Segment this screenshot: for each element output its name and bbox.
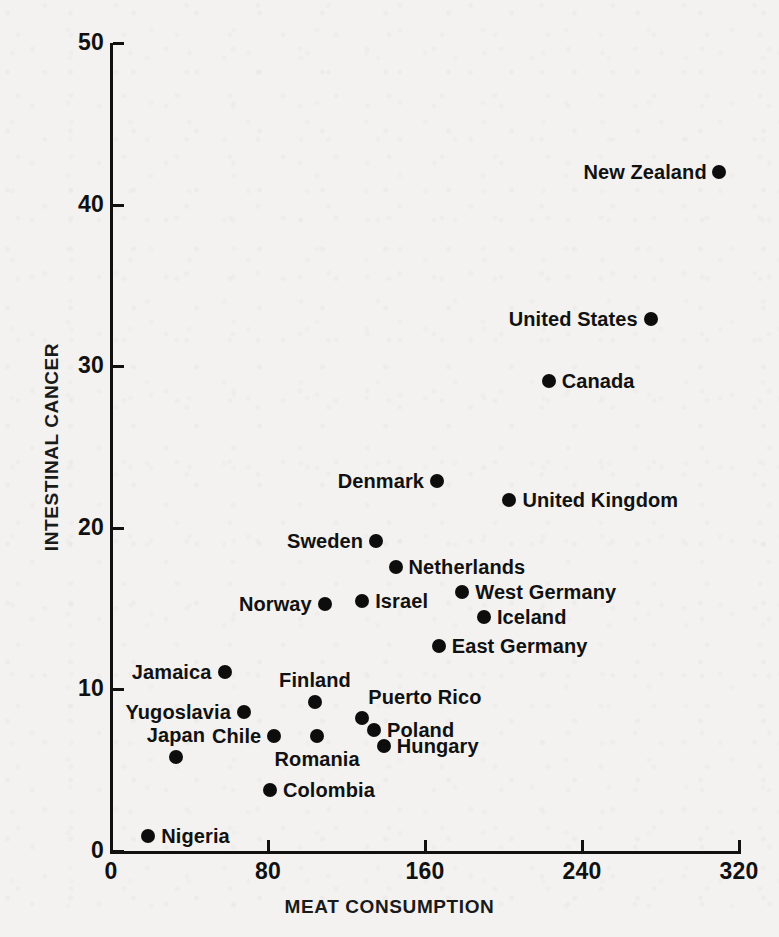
data-point[interactable] bbox=[237, 705, 251, 719]
data-point[interactable] bbox=[430, 474, 444, 488]
data-point-label: Yugoslavia bbox=[125, 702, 231, 722]
x-axis-tick-label: 240 bbox=[547, 860, 617, 883]
paper-texture bbox=[0, 0, 779, 937]
data-point-label: Norway bbox=[239, 594, 312, 614]
y-axis-tick bbox=[113, 688, 124, 691]
data-point[interactable] bbox=[502, 493, 516, 507]
data-point-label: East Germany bbox=[452, 636, 588, 656]
data-point[interactable] bbox=[318, 597, 332, 611]
y-axis-tick-label: 50 bbox=[44, 31, 104, 54]
x-axis-tick-label: 80 bbox=[233, 860, 303, 883]
x-axis-line bbox=[110, 851, 741, 854]
data-point[interactable] bbox=[218, 665, 232, 679]
y-axis-tick bbox=[113, 850, 124, 853]
data-point-label: United States bbox=[509, 309, 638, 329]
data-point-label: Hungary bbox=[397, 736, 479, 756]
x-axis-tick-label: 160 bbox=[390, 860, 460, 883]
data-point-label: Finland bbox=[279, 670, 351, 690]
data-point-label: United Kingdom bbox=[522, 490, 678, 510]
data-point-label: Israel bbox=[375, 591, 428, 611]
data-point[interactable] bbox=[267, 729, 281, 743]
data-point[interactable] bbox=[310, 729, 324, 743]
data-point-label: Jamaica bbox=[132, 662, 212, 682]
data-point-label: Romania bbox=[275, 749, 360, 769]
data-point[interactable] bbox=[377, 739, 391, 753]
data-point[interactable] bbox=[369, 534, 383, 548]
data-point[interactable] bbox=[389, 560, 403, 574]
data-point[interactable] bbox=[542, 374, 556, 388]
y-axis-tick bbox=[113, 527, 124, 530]
chart-page: New ZealandUnited StatesCanadaDenmarkUni… bbox=[0, 0, 779, 937]
data-point[interactable] bbox=[141, 829, 155, 843]
x-axis-title: MEAT CONSUMPTION bbox=[0, 896, 779, 918]
y-axis-line bbox=[110, 43, 113, 854]
data-point[interactable] bbox=[644, 312, 658, 326]
y-axis-tick-label: 20 bbox=[44, 516, 104, 539]
x-axis-tick-label: 320 bbox=[704, 860, 774, 883]
data-point[interactable] bbox=[263, 783, 277, 797]
y-axis-tick bbox=[113, 365, 124, 368]
x-axis-tick-label: 0 bbox=[76, 860, 146, 883]
x-axis-tick bbox=[424, 840, 427, 851]
data-point-label: New Zealand bbox=[583, 162, 706, 182]
data-point[interactable] bbox=[432, 639, 446, 653]
data-point[interactable] bbox=[712, 165, 726, 179]
data-point-label: Puerto Rico bbox=[368, 687, 481, 707]
y-axis-tick-label: 40 bbox=[44, 193, 104, 216]
data-point[interactable] bbox=[367, 723, 381, 737]
data-point-label: Chile bbox=[212, 726, 261, 746]
data-point-label: Iceland bbox=[497, 607, 567, 627]
data-point-label: West Germany bbox=[475, 582, 616, 602]
y-axis-tick bbox=[113, 204, 124, 207]
data-point-label: Canada bbox=[562, 371, 635, 391]
x-axis-tick bbox=[738, 840, 741, 851]
x-axis-tick bbox=[267, 840, 270, 851]
x-axis-tick bbox=[581, 840, 584, 851]
data-point-label: Japan bbox=[147, 725, 205, 745]
data-point[interactable] bbox=[477, 610, 491, 624]
data-point-label: Sweden bbox=[287, 531, 363, 551]
y-axis-title: INTESTINAL CANCER bbox=[41, 167, 63, 727]
y-axis-tick-label: 30 bbox=[44, 354, 104, 377]
data-point[interactable] bbox=[169, 750, 183, 764]
data-point[interactable] bbox=[308, 695, 322, 709]
data-point-label: Colombia bbox=[283, 780, 375, 800]
data-point-label: Nigeria bbox=[161, 826, 230, 846]
data-point[interactable] bbox=[355, 594, 369, 608]
data-point[interactable] bbox=[355, 711, 369, 725]
y-axis-tick-label: 0 bbox=[44, 839, 104, 862]
data-point-label: Denmark bbox=[338, 471, 424, 491]
data-point[interactable] bbox=[455, 585, 469, 599]
y-axis-tick bbox=[113, 42, 124, 45]
y-axis-tick-label: 10 bbox=[44, 677, 104, 700]
data-point-label: Netherlands bbox=[409, 557, 526, 577]
